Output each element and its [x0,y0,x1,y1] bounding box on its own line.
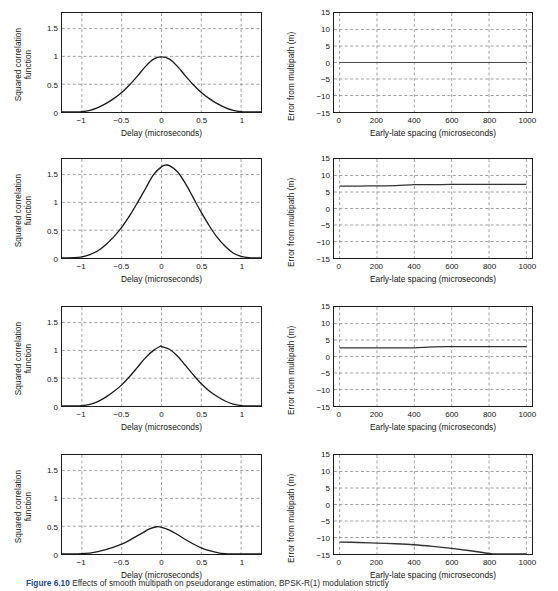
gridlines-row2-left [62,159,261,258]
plot-svg-row3-left [62,307,261,406]
figure-caption: Figure 6.10 Effects of smooth multipath … [26,578,546,589]
ylabel-error-multipath: Error from multipath (m) [287,302,296,415]
xtick-label: 0 [159,410,163,419]
ytick-label: 5 [312,335,330,344]
curve-row4-right [340,542,527,554]
gridlines-row4-right [334,455,532,554]
xtick-label: 1000 [518,410,536,419]
panel-row1-squared-correlation: Squared correlation function −1−0.500.51… [0,0,279,145]
xlabel-early-late-spacing: Early-late spacing (microseconds) [319,128,547,138]
xtick-label: 0 [159,116,163,125]
curve-row2-right [340,184,527,186]
ylabel-line1: Squared correlation [14,470,23,543]
ytick-label: 5 [312,483,330,492]
curve-row2-left [62,165,261,258]
plot-svg-row2-left [62,159,261,258]
xtick-label: 600 [445,116,458,125]
plot-svg-row1-left [62,13,261,112]
xtick-label: 0 [336,558,340,567]
ytick-label: −15 [312,255,330,264]
xtick-label: 0.5 [196,116,207,125]
panel-row2-error-multipath: Error from multipath (m) 020040060080010… [279,146,558,291]
xtick-label: 0.5 [196,262,207,271]
ytick-label: 1.5 [40,317,58,326]
xtick-label: 600 [445,410,458,419]
xtick-label: −1 [77,262,86,271]
xtick-label: 0 [336,410,340,419]
ytick-label: −15 [312,551,330,560]
ytick-label: 0 [40,255,58,264]
xtick-label: 1 [240,262,244,271]
ytick-label: 1.5 [40,23,58,32]
gridlines-row1-left [62,13,261,112]
xtick-label: 0 [336,262,340,271]
plot-svg-row4-left [62,455,261,554]
plot-area-row2-right [333,158,533,259]
plot-svg-row1-right [334,13,532,112]
ytick-label: −10 [312,92,330,101]
ytick-label: 1.5 [40,169,58,178]
panel-row4-error-multipath: Error from multipath (m) 020040060080010… [279,442,558,587]
ytick-label: 10 [312,24,330,33]
ytick-label: −10 [312,238,330,247]
ytick-label: 0.5 [40,80,58,89]
ytick-label: 1 [40,494,58,503]
xtick-label: 200 [370,262,383,271]
xtick-label: 0 [159,262,163,271]
ytick-label: 0.5 [40,226,58,235]
ytick-label: −15 [312,109,330,118]
xtick-label: 400 [407,262,420,271]
plot-svg-row4-right [334,455,532,554]
ytick-label: 15 [312,154,330,163]
ylabel-error-multipath: Error from multipath (m) [287,8,296,121]
ylabel-line2: function [24,196,33,225]
ytick-label: 10 [312,466,330,475]
ytick-label: 15 [312,8,330,17]
xtick-label: 200 [370,558,383,567]
xtick-label: 400 [407,410,420,419]
gridlines-row3-right [334,307,532,406]
ytick-label: 0 [40,403,58,412]
panel-row-3: Squared correlation function −1−0.500.51… [0,294,558,439]
xtick-label: −0.5 [113,116,129,125]
xtick-label: 400 [407,558,420,567]
xtick-label: 200 [370,410,383,419]
caption-number: 6.10 [54,578,70,588]
xtick-label: −0.5 [113,410,129,419]
ylabel-squared-correlation: Squared correlation function [14,456,33,557]
plot-area-row3-right [333,306,533,407]
xtick-label: 800 [483,558,496,567]
plot-area-row1-right [333,12,533,113]
figure-multipath-effects: Squared correlation function −1−0.500.51… [0,0,558,591]
ytick-label: 1 [40,346,58,355]
ytick-label: 0 [312,204,330,213]
xtick-label: −0.5 [113,262,129,271]
ylabel-line1: Squared correlation [14,322,23,395]
plot-area-row2-left [61,158,262,259]
ytick-label: −5 [312,221,330,230]
panel-row1-error-multipath: Error from multipath (m) 020040060080010… [279,0,558,145]
caption-label: Figure [26,578,51,588]
xtick-label: 600 [445,262,458,271]
ytick-label: 15 [312,450,330,459]
ylabel-squared-correlation: Squared correlation function [14,14,33,115]
plot-area-row4-right [333,454,533,555]
xtick-label: 1 [240,410,244,419]
panel-row3-squared-correlation: Squared correlation function −1−0.500.51… [0,294,279,439]
panel-row-2: Squared correlation function −1−0.500.51… [0,146,558,291]
ylabel-squared-correlation: Squared correlation function [14,308,33,409]
xtick-label: −1 [77,116,86,125]
xtick-label: 600 [445,558,458,567]
xtick-label: −0.5 [113,558,129,567]
ytick-label: −5 [312,369,330,378]
xtick-label: 1 [240,116,244,125]
xlabel-delay: Delay (microseconds) [61,274,262,284]
xtick-label: 1000 [518,262,536,271]
ytick-label: 15 [312,302,330,311]
ytick-label: −10 [312,386,330,395]
ytick-label: −10 [312,534,330,543]
xtick-label: 1000 [518,116,536,125]
ytick-label: −5 [312,75,330,84]
ytick-label: −15 [312,403,330,412]
xtick-label: 400 [407,116,420,125]
